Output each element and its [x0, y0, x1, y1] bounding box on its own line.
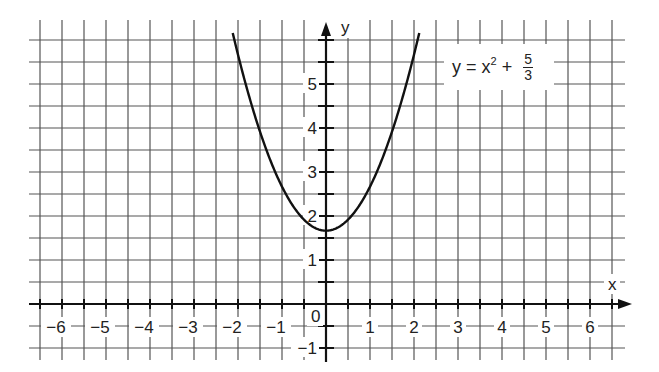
- y-axis-label: y: [341, 18, 350, 37]
- equation-plus: +: [497, 57, 518, 78]
- equation-lhs: y = x: [452, 57, 491, 78]
- x-tick-label: −3: [178, 318, 197, 337]
- y-tick-label: −1: [298, 339, 317, 358]
- x-tick-label: 4: [497, 318, 506, 337]
- fraction-numerator: 5: [524, 52, 532, 67]
- x-tick-label: −6: [46, 318, 65, 337]
- x-tick-label: 3: [453, 318, 462, 337]
- x-tick-label: −1: [266, 318, 285, 337]
- x-tick-label: 5: [541, 318, 550, 337]
- y-tick-label: 4: [308, 119, 317, 138]
- equation-fraction: 5 3: [523, 52, 533, 83]
- x-tick-label: −5: [90, 318, 109, 337]
- y-tick-label: 5: [308, 75, 317, 94]
- y-tick-label: 1: [308, 251, 317, 270]
- x-tick-label: −4: [134, 318, 153, 337]
- parabola-chart: −6−5−4−3−2−1123456−112345 x y 0: [0, 0, 659, 372]
- y-tick-label: 3: [308, 163, 317, 182]
- equation-exponent: 2: [491, 55, 497, 67]
- x-tick-label: 6: [585, 318, 594, 337]
- x-tick-label: 2: [409, 318, 418, 337]
- x-axis-label: x: [608, 275, 617, 294]
- fraction-denominator: 3: [524, 68, 532, 83]
- x-tick-label: 1: [365, 318, 374, 337]
- x-tick-label: −2: [222, 318, 241, 337]
- origin-label: 0: [311, 307, 320, 326]
- equation-label: y = x2 + 5 3: [444, 44, 554, 90]
